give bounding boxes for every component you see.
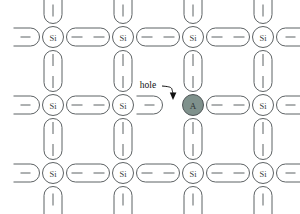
silicon-atom-label: Si [49, 101, 57, 111]
silicon-atom: Si [253, 27, 274, 48]
lattice-diagram: SiSiSiSiSiSiASiSiSiSiSi hole [0, 0, 300, 214]
silicon-atom-label: Si [259, 169, 267, 179]
silicon-atom: Si [43, 163, 64, 184]
silicon-atom-label: Si [49, 33, 57, 43]
acceptor-atom: A [183, 95, 204, 116]
silicon-atom-label: Si [119, 101, 127, 111]
acceptor-atom-label: A [190, 101, 197, 111]
silicon-atom-label: Si [119, 169, 127, 179]
silicon-atom: Si [183, 27, 204, 48]
silicon-atom-label: Si [119, 33, 127, 43]
silicon-atom-label: Si [189, 33, 197, 43]
silicon-atom: Si [113, 163, 134, 184]
silicon-atom: Si [43, 95, 64, 116]
lattice-svg-canvas: SiSiSiSiSiSiASiSiSiSiSi hole [0, 0, 300, 214]
silicon-atom: Si [113, 27, 134, 48]
hole-annotation-label: hole [140, 80, 156, 90]
silicon-atom: Si [183, 163, 204, 184]
silicon-atom-label: Si [259, 33, 267, 43]
silicon-atom: Si [253, 163, 274, 184]
silicon-atom: Si [43, 27, 64, 48]
silicon-atom: Si [253, 95, 274, 116]
silicon-atom-label: Si [259, 101, 267, 111]
silicon-atom-label: Si [49, 169, 57, 179]
silicon-atom-label: Si [189, 169, 197, 179]
silicon-atom: Si [113, 95, 134, 116]
